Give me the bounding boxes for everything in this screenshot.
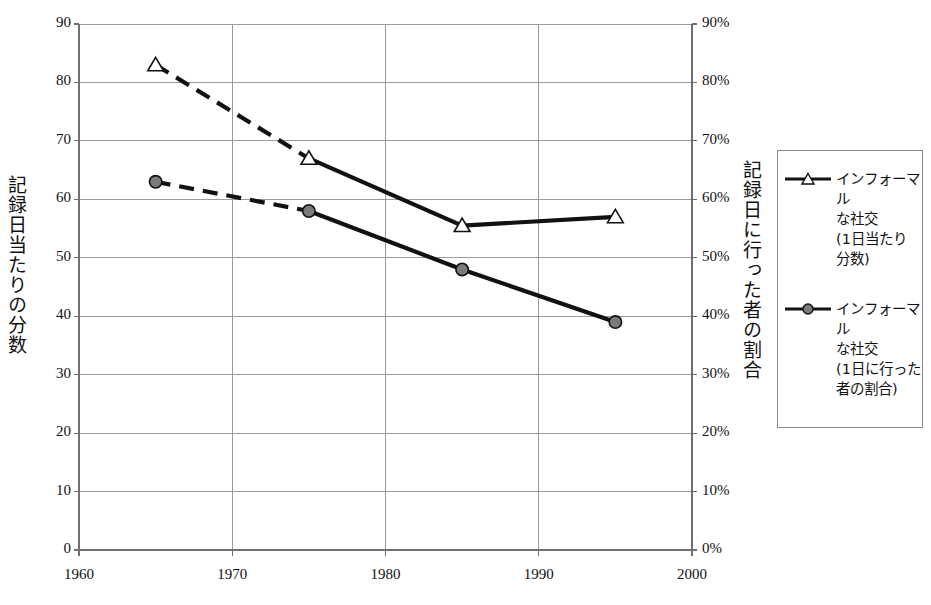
x-axis-tick-1970: 1970 (197, 566, 267, 583)
y-axis-right-tick-90pct: 90% (702, 14, 752, 31)
y-axis-left-tick-70: 70 (25, 131, 71, 148)
y-axis-right-tick-60pct: 60% (702, 189, 752, 206)
y-axis-left-tick-20: 20 (25, 423, 71, 440)
legend: インフォーマル な社交 (1日当たり 分数) インフォーマル な社交 (1日に行… (777, 150, 923, 428)
y-axis-right-tick-0pct: 0% (702, 540, 752, 557)
y-axis-right-tick-70pct: 70% (702, 131, 752, 148)
data-point-marker (609, 316, 621, 328)
y-axis-right-tick-10pct: 10% (702, 482, 752, 499)
legend-label-informal-social-percent: インフォーマル な社交 (1日に行った 者の割合) (836, 299, 924, 399)
y-axis-left-tick-40: 40 (25, 306, 71, 323)
legend-marker-circle-icon (784, 301, 832, 317)
data-point-marker (148, 57, 164, 70)
legend-marker-triangle-icon (784, 171, 832, 187)
y-axis-left-tick-30: 30 (25, 365, 71, 382)
y-axis-right-tick-50pct: 50% (702, 248, 752, 265)
chart-root: 記録日当たりの分数 記録日に行った者の割合 010203040506070809… (0, 0, 931, 605)
y-axis-left-tick-10: 10 (25, 482, 71, 499)
legend-label-informal-social-minutes: インフォーマル な社交 (1日当たり 分数) (836, 169, 924, 269)
y-axis-left-tick-80: 80 (25, 72, 71, 89)
y-axis-right-tick-20pct: 20% (702, 423, 752, 440)
y-axis-left-tick-0: 0 (25, 540, 71, 557)
x-axis-tick-1980: 1980 (351, 566, 421, 583)
y-axis-left-tick-90: 90 (25, 14, 71, 31)
legend-item-informal-social-percent[interactable]: インフォーマル な社交 (1日に行った 者の割合) (784, 299, 924, 399)
y-axis-left-tick-50: 50 (25, 248, 71, 265)
data-point-marker (456, 263, 468, 275)
data-point-marker (149, 176, 161, 188)
legend-item-informal-social-minutes[interactable]: インフォーマル な社交 (1日当たり 分数) (784, 169, 924, 269)
x-axis-tick-1990: 1990 (504, 566, 574, 583)
data-point-marker (303, 205, 315, 217)
x-axis-tick-2000: 2000 (657, 566, 727, 583)
y-axis-left-tick-60: 60 (25, 189, 71, 206)
y-axis-right-tick-30pct: 30% (702, 365, 752, 382)
x-axis-tick-1960: 1960 (44, 566, 114, 583)
y-axis-right-tick-80pct: 80% (702, 72, 752, 89)
y-axis-right-tick-40pct: 40% (702, 306, 752, 323)
